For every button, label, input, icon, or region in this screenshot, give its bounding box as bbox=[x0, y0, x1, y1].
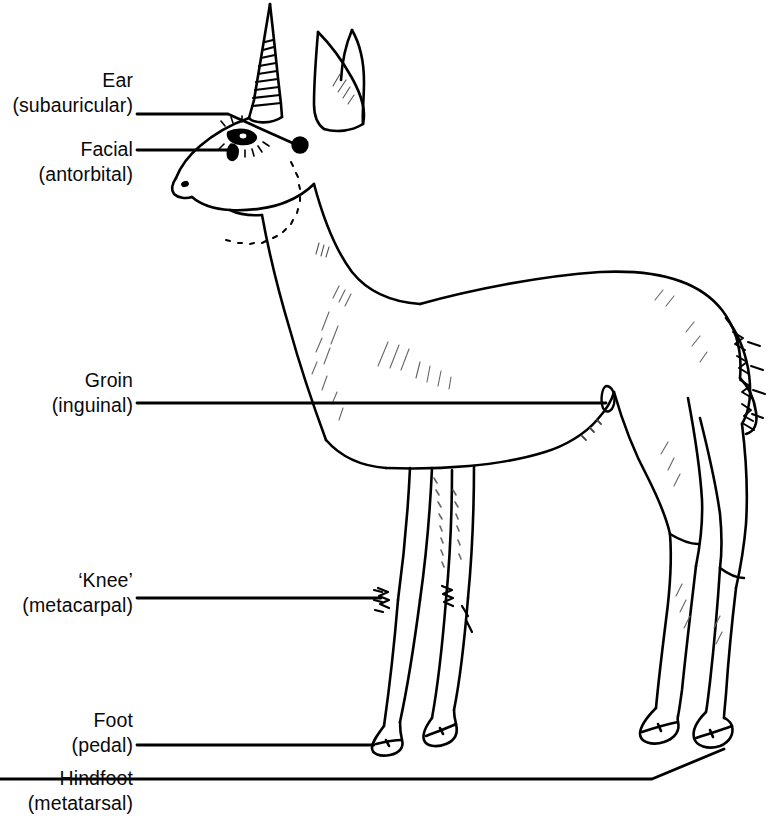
label-foot-line2: (pedal) bbox=[72, 733, 133, 758]
cheek-stipple bbox=[226, 162, 300, 244]
label-knee: ‘Knee’ (metacarpal) bbox=[22, 568, 133, 618]
eye bbox=[227, 129, 256, 144]
label-hindfoot: Hindfoot (metatarsal) bbox=[28, 766, 133, 816]
hindleg-far bbox=[694, 418, 747, 748]
label-hindfoot-line1: Hindfoot bbox=[28, 766, 133, 791]
label-hindfoot-line2: (metatarsal) bbox=[28, 791, 133, 816]
body-outline bbox=[326, 272, 740, 469]
foreleg-rear bbox=[423, 466, 474, 746]
label-ear: Ear (subauricular) bbox=[12, 68, 133, 118]
leader-ear bbox=[137, 114, 297, 145]
label-groin-line2: (inguinal) bbox=[52, 393, 133, 418]
label-facial-line2: (antorbital) bbox=[39, 162, 133, 187]
label-groin: Groin (inguinal) bbox=[52, 368, 133, 418]
label-knee-line1: ‘Knee’ bbox=[22, 568, 133, 593]
nostril bbox=[180, 180, 190, 188]
label-foot-line1: Foot bbox=[72, 708, 133, 733]
foreleg-dotted-hatch bbox=[434, 478, 461, 567]
body-hatch bbox=[312, 286, 707, 486]
label-groin-line1: Groin bbox=[52, 368, 133, 393]
metacarpal-gland-marker bbox=[374, 588, 389, 612]
hindleg-near bbox=[614, 392, 702, 744]
label-ear-line2: (subauricular) bbox=[12, 93, 133, 118]
label-ear-line1: Ear bbox=[12, 68, 133, 93]
label-facial: Facial (antorbital) bbox=[39, 137, 133, 187]
ear-outline bbox=[314, 30, 364, 131]
label-knee-line2: (metacarpal) bbox=[22, 593, 133, 618]
neck-hatch bbox=[316, 243, 329, 257]
leader-lines bbox=[0, 114, 724, 779]
label-facial-line1: Facial bbox=[39, 137, 133, 162]
label-foot: Foot (pedal) bbox=[72, 708, 133, 758]
antorbital-gland-marker bbox=[227, 144, 238, 160]
